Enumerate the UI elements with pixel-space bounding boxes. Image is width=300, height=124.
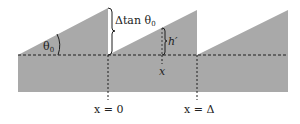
origin-label: x = 0: [94, 103, 123, 116]
sawtooth-diagram: θ0 Δtan θ0 h′ x x = 0 x = Δ: [0, 0, 300, 124]
step-height-brace: [108, 8, 115, 55]
local-x-label: x: [159, 65, 166, 78]
local-height-label: h′: [168, 35, 178, 48]
step-height-label: Δtan θ0: [115, 14, 156, 28]
period-label: x = Δ: [184, 103, 214, 116]
